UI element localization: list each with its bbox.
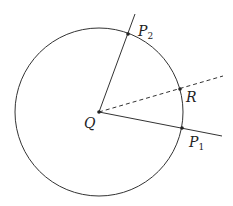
ray-q-p1 xyxy=(99,112,222,136)
point-p1 xyxy=(180,126,184,130)
label-q: Q xyxy=(84,115,96,131)
ray-q-p2 xyxy=(99,14,135,112)
label-p1: P1 xyxy=(188,134,204,152)
ray-q-r-dashed xyxy=(99,76,223,112)
point-r xyxy=(178,87,182,91)
label-r: R xyxy=(185,89,197,105)
label-p2: P2 xyxy=(137,23,153,41)
point-p2 xyxy=(126,32,130,36)
point-q xyxy=(97,110,101,114)
geometry-diagram: Q P2 R P1 xyxy=(0,0,233,206)
